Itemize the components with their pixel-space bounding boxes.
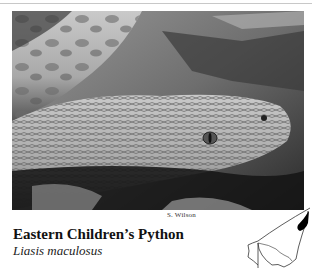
top-rule (0, 3, 312, 4)
snake-photo-illustration (12, 11, 304, 210)
map-border (258, 243, 292, 261)
species-photo (12, 11, 304, 210)
photo-credit: S. Wilson (167, 211, 196, 219)
map-coastline (248, 208, 310, 265)
species-common-name: Eastern Children’s Python (13, 226, 184, 243)
map-outline (258, 211, 308, 268)
distribution-map (240, 205, 315, 271)
species-scientific-name: Liasis maculosus (13, 243, 102, 259)
